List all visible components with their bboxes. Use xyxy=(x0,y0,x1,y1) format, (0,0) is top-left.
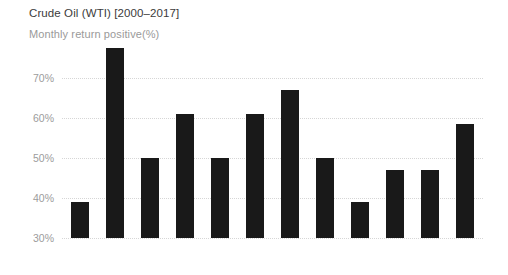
y-axis-tick-label: 30% xyxy=(14,232,54,244)
y-axis-tick-label: 70% xyxy=(14,72,54,84)
chart-container: Crude Oil (WTI) [2000–2017] Monthly retu… xyxy=(0,0,508,275)
chart-subtitle: Monthly return positive(%) xyxy=(29,28,159,40)
bar[interactable] xyxy=(456,124,474,238)
bar[interactable] xyxy=(246,114,264,238)
y-axis-tick-label: 60% xyxy=(14,112,54,124)
bar[interactable] xyxy=(421,170,439,238)
y-axis-tick-label: 40% xyxy=(14,192,54,204)
bar[interactable] xyxy=(211,158,229,238)
y-axis-tick-label: 50% xyxy=(14,152,54,164)
y-axis: 30%40%50%60%70% xyxy=(10,40,54,238)
chart-title: Crude Oil (WTI) [2000–2017] xyxy=(29,7,179,19)
bar[interactable] xyxy=(281,90,299,238)
bar[interactable] xyxy=(386,170,404,238)
bar[interactable] xyxy=(316,158,334,238)
bar[interactable] xyxy=(351,202,369,238)
bars-layer: JanFebMarAprMayJunJulAugSepOctNovDec xyxy=(62,40,483,238)
bar[interactable] xyxy=(71,202,89,238)
bar[interactable] xyxy=(176,114,194,238)
bar[interactable] xyxy=(141,158,159,238)
gridline-30 xyxy=(62,238,483,239)
bar[interactable] xyxy=(106,48,124,238)
